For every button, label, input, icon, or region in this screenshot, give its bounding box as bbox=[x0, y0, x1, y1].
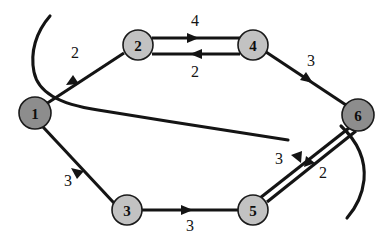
edge-weights-layer: 2 4 2 3 3 3 3 2 bbox=[64, 12, 327, 234]
edge-weight-3-5: 3 bbox=[186, 217, 194, 234]
edge-2-4 bbox=[152, 33, 240, 43]
graph-svg: 2 4 2 3 3 3 3 2 1 2 3 bbox=[0, 0, 392, 244]
edge-6-5-arrowhead bbox=[291, 151, 302, 163]
edge-2-4-arrowhead bbox=[187, 33, 199, 43]
node-6-label: 6 bbox=[354, 108, 362, 124]
node-3[interactable]: 3 bbox=[112, 195, 142, 225]
node-6[interactable]: 6 bbox=[342, 99, 374, 131]
node-5[interactable]: 5 bbox=[238, 195, 268, 225]
edge-weight-6-5: 3 bbox=[275, 150, 283, 167]
edge-5-6-line bbox=[267, 131, 356, 202]
graph-diagram-canvas: 2 4 2 3 3 3 3 2 1 2 3 bbox=[0, 0, 392, 244]
edge-4-2-arrowhead bbox=[190, 49, 202, 59]
stray-curves-layer bbox=[33, 16, 364, 218]
node-4-label: 4 bbox=[249, 38, 257, 54]
edge-3-5-arrowhead bbox=[181, 205, 193, 215]
edge-weight-1-2: 2 bbox=[71, 44, 79, 61]
edge-weight-5-6: 2 bbox=[319, 164, 327, 181]
node-2[interactable]: 2 bbox=[123, 30, 153, 60]
edge-4-2 bbox=[152, 49, 240, 59]
edge-1-2-arrowhead bbox=[66, 75, 79, 85]
edge-5-6 bbox=[267, 131, 356, 202]
node-5-label: 5 bbox=[249, 203, 257, 219]
node-1[interactable]: 1 bbox=[19, 97, 51, 129]
edge-weight-2-4: 4 bbox=[191, 12, 199, 29]
edge-3-5 bbox=[142, 205, 239, 215]
edge-4-6-arrowhead bbox=[300, 72, 313, 83]
node-3-label: 3 bbox=[123, 203, 131, 219]
edge-1-3 bbox=[43, 127, 114, 203]
edge-4-6 bbox=[266, 52, 346, 105]
edge-weight-4-2: 2 bbox=[191, 63, 199, 80]
edge-weight-1-3: 3 bbox=[64, 172, 72, 189]
node-2-label: 2 bbox=[134, 38, 142, 54]
edge-1-3-line bbox=[43, 127, 114, 203]
node-4[interactable]: 4 bbox=[238, 30, 268, 60]
edge-1-2 bbox=[46, 53, 124, 104]
node-1-label: 1 bbox=[31, 106, 39, 122]
edge-1-2-line bbox=[46, 53, 124, 104]
edge-weight-4-6: 3 bbox=[307, 52, 315, 69]
